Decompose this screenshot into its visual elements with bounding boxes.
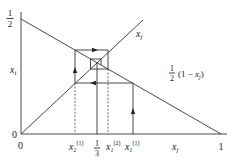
tick-label-x2-1: x2(1) — [68, 140, 83, 153]
tick-label-one-third-num: 1 — [95, 139, 99, 148]
identity-line-label: xj — [135, 28, 142, 41]
x-origin-label: 0 — [18, 140, 23, 151]
y-max-num: 1 — [8, 8, 13, 18]
y-axis-label: xi — [9, 64, 16, 77]
tick-label-x1-2: x1(2) — [105, 140, 120, 153]
response-label-den: 2 — [170, 74, 174, 83]
identity-line — [21, 20, 143, 134]
x-axis-label: xj — [171, 141, 178, 154]
arrow-right-icon — [92, 48, 98, 52]
tick-label-one-third-den: 3 — [95, 149, 99, 158]
tick-label-x1-1: x1(1) — [124, 140, 139, 153]
y-max-den: 2 — [8, 19, 13, 29]
arrow-left-icon — [90, 81, 96, 85]
y-origin-label: 0 — [12, 129, 17, 140]
cobweb-diagram: 1 2 xi 0 0 xj 1 2 (1 − xj) x2(1) 1 3 x1(… — [0, 0, 235, 163]
response-label-expr: (1 − xj) — [178, 69, 204, 80]
arrow-up-icon — [131, 108, 135, 114]
arrow-up-icon — [73, 67, 77, 73]
x-max-label: 1 — [219, 141, 224, 152]
response-label-num: 1 — [170, 64, 174, 73]
